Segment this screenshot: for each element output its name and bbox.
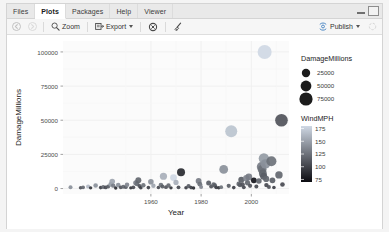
data-point[interactable] bbox=[81, 185, 85, 189]
ggplot-scatter-damage-vs-year: 0250005000075000100000196019802000YearDa… bbox=[7, 35, 382, 229]
plot-canvas: 0250005000075000100000196019802000YearDa… bbox=[7, 35, 382, 229]
toolbar-separator-2 bbox=[87, 22, 88, 32]
colorbar-legend-title: WindMPH bbox=[301, 114, 333, 123]
data-point[interactable] bbox=[272, 186, 276, 190]
colorbar-tick-label-0: 175 bbox=[315, 125, 326, 132]
size-legend-label-1: 50000 bbox=[317, 82, 335, 89]
export-button[interactable]: Export bbox=[93, 20, 135, 33]
next-plot-button[interactable] bbox=[27, 20, 38, 33]
data-point[interactable] bbox=[199, 185, 203, 189]
broom-icon bbox=[173, 22, 183, 32]
data-point[interactable] bbox=[256, 178, 262, 184]
size-legend-label-2: 75000 bbox=[317, 95, 335, 102]
xtick-label-0: 1960 bbox=[144, 198, 158, 205]
data-point[interactable] bbox=[263, 176, 269, 182]
plots-toolbar: Zoom Export Publish bbox=[7, 19, 382, 35]
data-point[interactable] bbox=[169, 186, 172, 189]
tab-packages-label: Packages bbox=[72, 8, 104, 15]
data-point[interactable] bbox=[275, 114, 288, 127]
export-icon bbox=[95, 22, 104, 31]
data-point[interactable] bbox=[258, 45, 272, 59]
magnifier-icon bbox=[51, 22, 60, 31]
ytick-label-2: 50000 bbox=[41, 117, 59, 124]
data-point[interactable] bbox=[192, 186, 195, 189]
data-point[interactable] bbox=[177, 168, 185, 176]
chevron-left-icon bbox=[12, 22, 21, 31]
data-point[interactable] bbox=[93, 183, 98, 188]
refresh-icon bbox=[368, 22, 377, 31]
tab-help[interactable]: Help bbox=[110, 4, 138, 18]
x-axis-title: Year bbox=[168, 208, 185, 217]
tab-plots-label: Plots bbox=[41, 8, 59, 15]
data-point[interactable] bbox=[160, 184, 164, 188]
data-point[interactable] bbox=[219, 165, 228, 174]
data-point[interactable] bbox=[135, 177, 141, 183]
tab-plots[interactable]: Plots bbox=[35, 4, 66, 19]
remove-circle-icon bbox=[148, 22, 158, 32]
size-legend-key-1 bbox=[301, 81, 312, 92]
ytick-label-3: 75000 bbox=[41, 83, 59, 90]
plots-pane-frame: Files Plots Packages Help Viewer Zoom bbox=[6, 3, 383, 229]
zoom-button-label: Zoom bbox=[62, 23, 80, 30]
tab-files-label: Files bbox=[13, 8, 28, 15]
ytick-label-0: 0 bbox=[55, 185, 59, 192]
data-point[interactable] bbox=[270, 177, 276, 183]
ytick-label-4: 100000 bbox=[37, 49, 58, 56]
data-point[interactable] bbox=[173, 180, 178, 185]
tab-files[interactable]: Files bbox=[7, 4, 35, 18]
data-point[interactable] bbox=[177, 185, 181, 189]
data-point[interactable] bbox=[251, 177, 257, 183]
data-point[interactable] bbox=[125, 182, 130, 187]
toolbar-separator-4 bbox=[165, 22, 166, 32]
data-point[interactable] bbox=[280, 182, 285, 187]
minimize-pane-icon[interactable] bbox=[357, 9, 365, 14]
toolbar-separator-3 bbox=[140, 22, 141, 32]
tab-packages[interactable]: Packages bbox=[66, 4, 111, 18]
data-point[interactable] bbox=[147, 186, 151, 190]
data-point[interactable] bbox=[232, 186, 236, 190]
data-point[interactable] bbox=[219, 185, 223, 189]
maximize-pane-icon[interactable] bbox=[368, 6, 379, 16]
chevron-down-icon[interactable] bbox=[129, 25, 133, 28]
remove-plot-button[interactable] bbox=[146, 20, 160, 33]
rstudio-plots-pane: Files Plots Packages Help Viewer Zoom bbox=[0, 0, 389, 232]
data-point[interactable] bbox=[89, 186, 92, 189]
data-point[interactable] bbox=[254, 184, 258, 188]
data-point[interactable] bbox=[141, 183, 145, 187]
xtick-label-2: 2000 bbox=[244, 198, 258, 205]
pane-tabstrip: Files Plots Packages Help Viewer bbox=[7, 4, 382, 19]
data-point[interactable] bbox=[275, 171, 282, 178]
publish-button[interactable]: Publish bbox=[316, 20, 362, 33]
zoom-button[interactable]: Zoom bbox=[49, 20, 82, 33]
data-point[interactable] bbox=[131, 185, 135, 189]
size-legend-key-0 bbox=[302, 69, 310, 77]
data-point[interactable] bbox=[225, 125, 237, 137]
size-legend-key-2 bbox=[299, 92, 312, 105]
previous-plot-button[interactable] bbox=[11, 20, 22, 33]
tab-viewer[interactable]: Viewer bbox=[138, 4, 173, 18]
colorbar-tick-label-1: 150 bbox=[315, 138, 326, 145]
publish-chevron-down-icon[interactable] bbox=[356, 25, 360, 28]
data-point[interactable] bbox=[69, 185, 73, 189]
data-point[interactable] bbox=[227, 184, 231, 188]
data-point[interactable] bbox=[248, 184, 252, 188]
colorbar-tick-label-3: 100 bbox=[315, 163, 326, 170]
tab-help-label: Help bbox=[116, 8, 131, 15]
size-legend-label-0: 25000 bbox=[317, 69, 335, 76]
ytick-label-1: 25000 bbox=[41, 151, 59, 158]
data-point[interactable] bbox=[267, 185, 271, 189]
toolbar-separator-1 bbox=[43, 22, 44, 32]
data-point[interactable] bbox=[266, 156, 276, 166]
window-controls bbox=[357, 6, 379, 16]
tabstrip-filler bbox=[173, 4, 382, 18]
refresh-plot-button[interactable] bbox=[367, 20, 378, 33]
data-point[interactable] bbox=[242, 185, 246, 189]
data-point[interactable] bbox=[160, 173, 167, 180]
xtick-label-1: 1980 bbox=[194, 198, 208, 205]
data-point[interactable] bbox=[151, 184, 155, 188]
clear-all-plots-button[interactable] bbox=[171, 20, 185, 33]
publish-icon bbox=[318, 22, 328, 31]
data-point[interactable] bbox=[109, 179, 115, 185]
colorbar-tick-label-2: 125 bbox=[315, 150, 326, 157]
size-legend-title: DamageMillions bbox=[301, 54, 353, 63]
